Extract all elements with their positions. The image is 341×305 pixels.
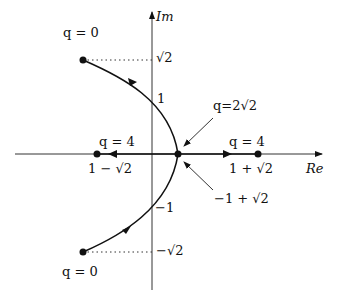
one-label: 1 (157, 92, 165, 105)
right-arrow-icon (223, 150, 232, 158)
neg-one-label: −1 (155, 201, 174, 214)
q0-top-label: q = 0 (63, 26, 99, 39)
q4-left-point (94, 151, 101, 158)
real-axis-label: Re (306, 162, 323, 175)
root-locus-plot (0, 0, 341, 305)
right-point-label: 1 + √2 (229, 162, 273, 175)
q-break-label: q=2√2 (213, 99, 257, 112)
q4-left-label: q = 4 (99, 135, 135, 148)
sqrt2-label: √2 (156, 51, 173, 64)
q0-bottom-point (80, 249, 87, 256)
q4-right-point (255, 151, 262, 158)
breakaway-point (175, 151, 182, 158)
q-break-pointer (184, 118, 213, 146)
lower-arrow-icon (122, 226, 131, 234)
left-arrow-icon (108, 150, 117, 158)
break-point-pointer (184, 162, 213, 190)
break-point-label: −1 + √2 (214, 192, 269, 205)
q4-right-label: q = 4 (229, 135, 265, 148)
neg-sqrt2-label: −√2 (156, 244, 183, 257)
imag-axis-label: Im (156, 10, 173, 23)
q0-bottom-label: q = 0 (62, 265, 98, 278)
q0-top-point (80, 57, 87, 64)
left-point-label: 1 − √2 (88, 162, 132, 175)
